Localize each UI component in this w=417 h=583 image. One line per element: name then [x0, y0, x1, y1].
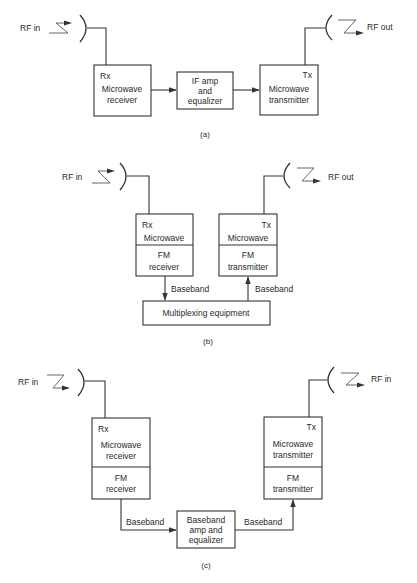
rf-in-label: RF in	[20, 23, 41, 33]
rf-out-label: RF in	[371, 374, 392, 384]
rx-top-label: Microwave	[144, 233, 185, 243]
antenna-feed-tx	[264, 176, 283, 214]
tx-label-line1: Microwave	[269, 84, 310, 94]
repeater-diagrams: RF in Rx Microwave receiver IF amp and e…	[0, 0, 417, 583]
baseband-right-label: Baseband	[244, 517, 283, 527]
antenna-dish-rx-icon	[78, 369, 84, 396]
rf-in-label: RF in	[62, 172, 83, 182]
bb-label-line2: amp and	[189, 525, 222, 535]
rx-top-label-line1: Microwave	[101, 440, 142, 450]
bb-label-line3: equalizer	[189, 535, 224, 545]
panel-a: RF in Rx Microwave receiver IF amp and e…	[20, 15, 393, 139]
caption-c: (c)	[201, 561, 211, 570]
tx-bottom-label-line2: transmitter	[273, 484, 313, 494]
tx-tag: Tx	[303, 70, 313, 80]
rx-bottom-label-line1: FM	[158, 250, 170, 260]
caption-b: (b)	[203, 337, 213, 346]
rx-tag: Rx	[100, 71, 111, 81]
mux-label: Multiplexing equipment	[163, 308, 251, 318]
antenna-feed-tx	[305, 28, 325, 65]
tx-bottom-label-line1: FM	[242, 250, 254, 260]
tx-label-line2: transmitter	[269, 95, 309, 105]
antenna-dish-tx-icon	[284, 163, 290, 188]
rx-label-line1: Microwave	[102, 84, 143, 94]
antenna-dish-tx-icon	[326, 15, 332, 40]
tx-tag: Tx	[262, 220, 272, 230]
tx-top-label-line2: transmitter	[273, 450, 313, 460]
bb-label-line1: Baseband	[187, 515, 226, 525]
rf-wave-out-icon	[338, 20, 364, 36]
if-label-line2: and	[198, 86, 212, 96]
rx-tag: Rx	[142, 220, 153, 230]
if-label-line3: equalizer	[188, 96, 223, 106]
rf-wave-in-icon	[47, 375, 70, 391]
tx-top-label: Microwave	[228, 233, 269, 243]
rf-wave-in-icon	[92, 169, 115, 184]
rf-wave-in-icon	[49, 21, 72, 34]
rx-label-line2: receiver	[107, 95, 137, 105]
rx-bottom-label-line2: receiver	[149, 262, 179, 272]
rx-top-label-line2: receiver	[106, 451, 136, 461]
antenna-dish-rx-icon	[80, 15, 86, 42]
caption-a: (a)	[200, 130, 210, 139]
rf-in-label: RF in	[18, 377, 39, 387]
if-label-line1: IF amp	[192, 76, 219, 86]
rf-wave-out-icon	[297, 168, 321, 184]
tx-tag: Tx	[307, 422, 317, 432]
antenna-dish-tx-icon	[328, 367, 334, 393]
rx-bottom-label-line1: FM	[115, 473, 127, 483]
baseband-up-label: Baseband	[255, 284, 294, 294]
tx-bottom-label-line2: transmitter	[228, 262, 268, 272]
antenna-feed-tx	[309, 380, 327, 417]
rf-out-label: RF out	[367, 22, 393, 32]
rf-out-label: RF out	[328, 172, 354, 182]
tx-top-label-line1: Microwave	[273, 439, 314, 449]
tx-bottom-label-line1: FM	[287, 473, 299, 483]
baseband-down-label: Baseband	[171, 284, 210, 294]
rx-bottom-label-line2: receiver	[106, 484, 136, 494]
antenna-feed-rx	[85, 381, 105, 418]
rx-tag: Rx	[98, 424, 109, 434]
antenna-feed-rx	[87, 28, 106, 65]
panel-c: RF in Rx Microwave receiver FM receiver …	[18, 367, 392, 570]
baseband-left-label: Baseband	[126, 517, 165, 527]
antenna-dish-rx-icon	[120, 163, 126, 190]
rf-wave-out-icon	[341, 373, 365, 388]
antenna-feed-rx	[127, 176, 149, 214]
panel-b: RF in Rx Microwave FM receiver Baseband …	[62, 163, 354, 346]
